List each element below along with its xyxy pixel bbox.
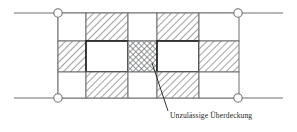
technical-diagram: Unzulässige Überdeckung — [0, 0, 297, 132]
cell-mid-1 — [58, 41, 86, 72]
cell-bottom-2 — [86, 72, 128, 98]
cell-top-4 — [157, 13, 199, 41]
cell-bottom-1 — [58, 72, 86, 98]
cell-mid-4 — [157, 41, 199, 72]
node-bottom-left — [54, 94, 62, 102]
cell-top-5 — [199, 13, 239, 41]
cell-mid-5 — [199, 41, 239, 72]
cell-top-3 — [128, 13, 157, 41]
annotation-label: Unzulässige Überdeckung — [170, 111, 252, 120]
cell-mid-2 — [86, 41, 128, 72]
node-top-right — [234, 9, 242, 17]
cell-mid-3-overlap — [128, 41, 157, 72]
node-bottom-right — [234, 94, 242, 102]
cell-top-2 — [86, 13, 128, 41]
figure-container: Unzulässige Überdeckung — [0, 0, 297, 132]
grid-row-top — [58, 13, 239, 41]
cell-bottom-3 — [128, 72, 157, 98]
cell-bottom-4 — [157, 72, 199, 98]
cell-top-1 — [58, 13, 86, 41]
cell-bottom-5 — [199, 72, 239, 98]
node-top-left — [54, 9, 62, 17]
grid-row-bottom — [58, 72, 239, 98]
grid-row-middle — [58, 41, 239, 72]
